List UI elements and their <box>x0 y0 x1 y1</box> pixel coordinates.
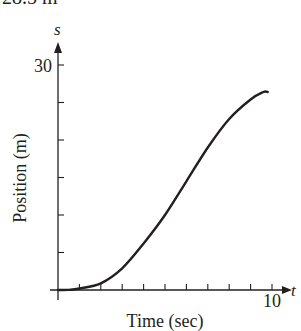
x-axis-variable: t <box>291 281 297 300</box>
y-axis-label: Position (m) <box>10 133 31 223</box>
y-ticks <box>58 65 64 253</box>
position-time-chart: s t 30 10 Time (sec) Position (m) <box>0 0 301 331</box>
y-tick-label-30: 30 <box>34 56 52 76</box>
axes <box>50 48 286 300</box>
y-axis-variable: s <box>54 20 61 39</box>
x-tick-label-10: 10 <box>263 291 281 311</box>
x-ticks <box>79 284 272 290</box>
x-axis-label: Time (sec) <box>127 311 204 331</box>
y-axis-arrow-icon <box>54 42 62 53</box>
position-curve <box>58 91 268 290</box>
